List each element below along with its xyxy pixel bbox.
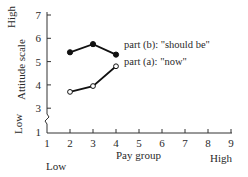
x-tick-label: 6 — [159, 137, 165, 149]
filled-circle-marker — [113, 52, 118, 57]
filled-circle-marker — [67, 50, 72, 55]
x-tick-label: 2 — [67, 137, 73, 149]
x-tick-label: 7 — [182, 137, 188, 149]
y-tick-label: 4 — [36, 79, 42, 91]
x-axis-title: Pay group — [116, 149, 161, 161]
y-axis-title: Attitude scale — [15, 39, 27, 100]
x-tick-label: 8 — [205, 137, 211, 149]
x-tick-label: 1 — [44, 137, 50, 149]
x-low-label: Low — [46, 160, 66, 172]
open-circle-marker — [91, 84, 96, 89]
svg-text:1: 1 — [36, 126, 42, 138]
axis-break-icon — [45, 114, 49, 124]
y-tick-label: 5 — [36, 56, 42, 68]
x-high-label: High — [210, 152, 232, 164]
filled-circle-marker — [90, 42, 95, 47]
legend-series-b: part (b): "should be" — [124, 39, 210, 50]
y-tick-label: 7 — [36, 9, 42, 21]
y-tick-label: 3 — [36, 102, 42, 114]
open-circle-marker — [114, 64, 119, 69]
y-high-label: High — [5, 6, 17, 28]
legend-series-a: part (a): "now" — [124, 56, 187, 67]
x-tick-label: 9 — [228, 137, 234, 149]
y-tick-label: 6 — [36, 32, 42, 44]
open-circle-marker — [68, 89, 73, 94]
y-low-label: Low — [12, 114, 24, 134]
x-tick-label: 5 — [136, 137, 142, 149]
x-tick-label: 4 — [113, 137, 119, 149]
x-tick-label: 3 — [90, 137, 96, 149]
